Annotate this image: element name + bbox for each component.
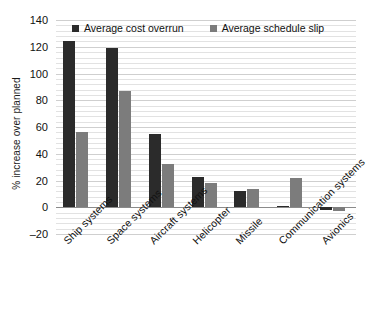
- bar-group: [234, 20, 259, 234]
- bar-group: [149, 20, 174, 234]
- legend-label: Average cost overrun: [84, 22, 184, 34]
- bar-chart: % increase over planned 1401201008060402…: [0, 0, 366, 329]
- legend-item[interactable]: Average schedule slip: [210, 22, 325, 34]
- legend-swatch-icon: [210, 25, 217, 32]
- bar: [333, 207, 345, 210]
- bar: [247, 189, 259, 207]
- y-axis-tick-label: 120: [30, 41, 48, 53]
- bar: [106, 48, 118, 207]
- bar: [290, 178, 302, 207]
- bar-group: [63, 20, 88, 234]
- legend-label: Average schedule slip: [222, 22, 325, 34]
- legend-item[interactable]: Average cost overrun: [72, 22, 184, 34]
- y-axis-tick-label: 100: [30, 68, 48, 80]
- legend-swatch-icon: [72, 25, 79, 32]
- bar-group: [106, 20, 131, 234]
- bar: [162, 164, 174, 207]
- bar: [320, 207, 332, 210]
- chart-legend: Average cost overrunAverage schedule sli…: [72, 22, 324, 34]
- gridline: [56, 234, 356, 235]
- bar: [63, 41, 75, 207]
- y-axis-tick-label: 20: [36, 175, 48, 187]
- bar: [192, 177, 204, 207]
- y-axis-tick-label: 60: [36, 121, 48, 133]
- y-axis-tick-label: –20: [30, 228, 48, 240]
- bars-layer: [56, 20, 356, 234]
- bar-group: [277, 20, 302, 234]
- y-axis-tick-label: 40: [36, 148, 48, 160]
- bar-group: [192, 20, 217, 234]
- y-axis-tick-label: 0: [42, 201, 48, 213]
- plot-area: [56, 20, 356, 234]
- bar: [76, 132, 88, 207]
- bar: [119, 91, 131, 207]
- y-axis-tick-label: 140: [30, 14, 48, 26]
- bar: [277, 206, 289, 207]
- bar: [205, 183, 217, 207]
- bar-group: [320, 20, 345, 234]
- bar: [149, 134, 161, 208]
- y-axis-tick-labels: 140120100806040200–20: [0, 20, 52, 234]
- bar: [234, 191, 246, 207]
- y-axis-tick-label: 80: [36, 94, 48, 106]
